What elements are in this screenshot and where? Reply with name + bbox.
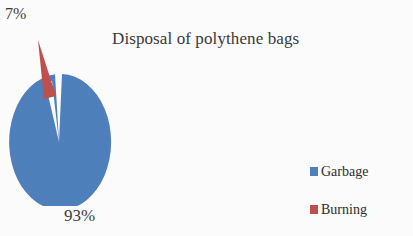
data-label-garbage: 93% [64, 206, 95, 226]
legend-item-garbage[interactable]: Garbage [310, 164, 406, 179]
legend-label-burning: Burning [321, 203, 367, 217]
pie-chart-figure: Disposal of polythene bags 7% 93% Garbag… [0, 0, 413, 236]
legend-label-garbage: Garbage [321, 165, 368, 179]
pie-slice-garbage[interactable] [9, 74, 111, 206]
chart-legend: Garbage Burning [310, 164, 406, 236]
pie-plot-area [0, 24, 130, 206]
legend-swatch-garbage-icon [310, 167, 318, 176]
pie-svg [0, 24, 130, 206]
chart-title: Disposal of polythene bags [112, 28, 412, 50]
data-label-burning: 7% [5, 5, 26, 23]
legend-swatch-burning-icon [310, 205, 318, 214]
legend-item-burning[interactable]: Burning [310, 202, 406, 217]
